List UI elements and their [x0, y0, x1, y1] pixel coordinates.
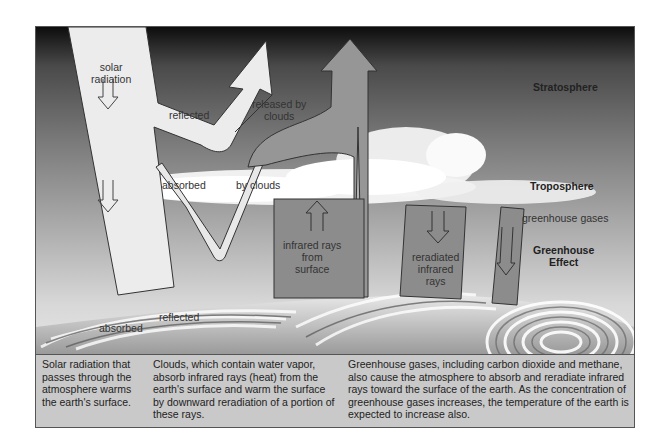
caption-clouds: Clouds, which contain water vapor, absor…: [147, 355, 340, 428]
reflected-top-label: reflected: [169, 109, 209, 121]
label-line: solar: [91, 61, 131, 73]
label-line: clouds: [252, 110, 306, 122]
label-line: radiation: [91, 73, 131, 85]
troposphere-label: Troposphere: [530, 180, 594, 192]
reflected-surface-label: reflected: [159, 311, 199, 323]
label-line: from: [283, 251, 341, 263]
label-line: reradiated: [412, 251, 459, 263]
solar-radiation-label: solar radiation: [91, 61, 131, 85]
label-line: surface: [283, 263, 341, 275]
label-line: released by: [252, 98, 306, 110]
caption-strip: Solar radiation that passes through the …: [36, 354, 634, 428]
released-by-clouds-label: released by clouds: [252, 98, 306, 122]
label-line: rays: [412, 275, 459, 287]
stratosphere-label: Stratosphere: [533, 81, 598, 93]
greenhouse-gases-label: greenhouse gases: [522, 212, 608, 224]
caption-solar: Solar radiation that passes through the …: [36, 355, 147, 428]
greenhouse-diagram: solar radiation reflected released by cl…: [35, 26, 635, 428]
absorbed-cloud-label: absorbed: [162, 179, 206, 191]
label-line: infrared rays: [283, 239, 341, 251]
label-line: Greenhouse: [533, 244, 594, 256]
greenhouse-effect-label: Greenhouse Effect: [533, 244, 594, 268]
label-line: infrared: [412, 263, 459, 275]
by-clouds-label: by clouds: [236, 179, 280, 191]
caption-greenhouse-gases: Greenhouse gases, including carbon dioxi…: [340, 355, 634, 428]
absorbed-surface-label: absorbed: [99, 322, 143, 334]
label-line: Effect: [533, 256, 594, 268]
infrared-from-surface-label: infrared rays from surface: [283, 239, 341, 275]
atmosphere-illustration: solar radiation reflected released by cl…: [36, 27, 634, 354]
reradiated-infrared-label: reradiated infrared rays: [412, 251, 459, 287]
